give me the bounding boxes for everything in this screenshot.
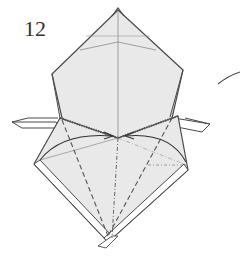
left-flap [12, 118, 60, 128]
next-step-arrow [218, 72, 240, 84]
origami-diagram [0, 0, 240, 256]
